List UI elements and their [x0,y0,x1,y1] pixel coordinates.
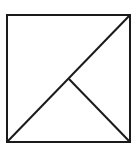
midpoint-to-corner-line [69,79,130,142]
geometry-diagram [0,0,137,148]
